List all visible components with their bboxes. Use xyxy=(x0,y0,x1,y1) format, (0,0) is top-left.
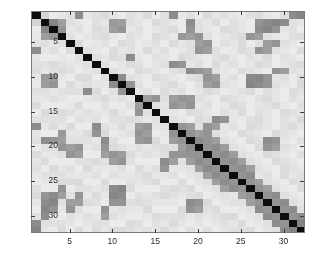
figure-container: 51015202530 51015202530 xyxy=(0,0,317,262)
x-tick-label: 30 xyxy=(274,237,294,246)
x-tick-mark-top xyxy=(241,11,242,15)
y-tick-mark-right xyxy=(300,181,304,182)
x-tick-mark-top xyxy=(70,11,71,15)
y-tick-mark-right xyxy=(300,77,304,78)
x-tick-label: 15 xyxy=(145,237,165,246)
y-tick-mark-right xyxy=(300,112,304,113)
y-tick-label: 5 xyxy=(38,37,58,46)
y-tick-label: 10 xyxy=(38,72,58,81)
x-tick-mark xyxy=(284,229,285,233)
y-tick-mark-right xyxy=(300,146,304,147)
x-tick-mark xyxy=(198,229,199,233)
x-tick-mark xyxy=(70,229,71,233)
y-tick-mark xyxy=(31,77,35,78)
x-tick-label: 20 xyxy=(188,237,208,246)
x-tick-mark-top xyxy=(112,11,113,15)
x-tick-mark xyxy=(155,229,156,233)
x-tick-label: 25 xyxy=(231,237,251,246)
y-tick-label: 20 xyxy=(38,141,58,150)
x-tick-label: 5 xyxy=(60,237,80,246)
y-tick-label: 30 xyxy=(38,211,58,220)
y-tick-mark xyxy=(31,146,35,147)
x-tick-mark-top xyxy=(198,11,199,15)
y-tick-mark xyxy=(31,112,35,113)
y-tick-mark xyxy=(31,181,35,182)
heatmap-plot-area[interactable] xyxy=(31,11,305,233)
y-tick-label: 25 xyxy=(38,176,58,185)
y-tick-label: 15 xyxy=(38,107,58,116)
x-tick-mark-top xyxy=(155,11,156,15)
y-tick-mark xyxy=(31,42,35,43)
x-tick-mark xyxy=(241,229,242,233)
heatmap-matrix-canvas[interactable] xyxy=(32,12,305,233)
y-tick-mark-right xyxy=(300,216,304,217)
x-tick-label: 10 xyxy=(102,237,122,246)
y-tick-mark xyxy=(31,216,35,217)
x-tick-mark-top xyxy=(284,11,285,15)
y-tick-mark-right xyxy=(300,42,304,43)
x-tick-mark xyxy=(112,229,113,233)
